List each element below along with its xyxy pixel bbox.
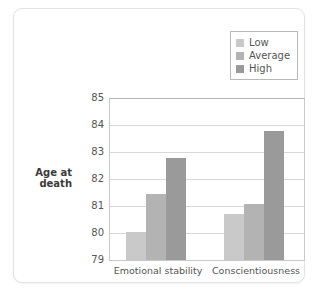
chart-legend: Low Average High: [230, 31, 298, 80]
legend-swatch-high: [236, 65, 244, 73]
chart-screenshot: Low Average High Age at death 85 84 83 8…: [0, 0, 319, 298]
bar-conscientiousness-low: [224, 214, 244, 260]
y-axis-title-line-2: death: [24, 178, 72, 189]
bar-conscientiousness-high: [264, 131, 284, 260]
bar-emotional-stability-low: [126, 232, 146, 260]
x-axis-category-labels: Emotional stability Conscientiousness: [109, 265, 305, 276]
chart-card: Low Average High Age at death 85 84 83 8…: [13, 8, 305, 283]
legend-item-high: High: [236, 62, 290, 75]
legend-swatch-average: [236, 52, 244, 60]
y-axis-title-line-1: Age at: [24, 167, 72, 178]
bar-group-emotional-stability: [126, 99, 186, 260]
legend-item-average: Average: [236, 49, 290, 62]
legend-label-high: High: [249, 62, 272, 75]
bar-group-conscientiousness: [224, 99, 284, 260]
y-tick-79: 79: [74, 255, 104, 265]
bar-conscientiousness-average: [244, 204, 264, 260]
y-axis-tick-labels: 85 84 83 82 81 80 79: [72, 93, 104, 266]
legend-label-average: Average: [249, 49, 290, 62]
x-label-conscientiousness: Conscientiousness: [207, 265, 305, 276]
y-tick-81: 81: [74, 201, 104, 211]
y-tick-83: 83: [74, 147, 104, 157]
y-tick-82: 82: [74, 174, 104, 184]
bar-emotional-stability-high: [166, 158, 186, 260]
y-axis-title: Age at death: [24, 167, 72, 189]
y-tick-84: 84: [74, 120, 104, 130]
plot-area: [109, 98, 305, 261]
y-tick-85: 85: [74, 93, 104, 103]
y-tick-80: 80: [74, 228, 104, 238]
legend-label-low: Low: [249, 36, 269, 49]
x-label-emotional-stability: Emotional stability: [109, 265, 207, 276]
legend-swatch-low: [236, 39, 244, 47]
legend-item-low: Low: [236, 36, 290, 49]
bar-emotional-stability-average: [146, 194, 166, 260]
